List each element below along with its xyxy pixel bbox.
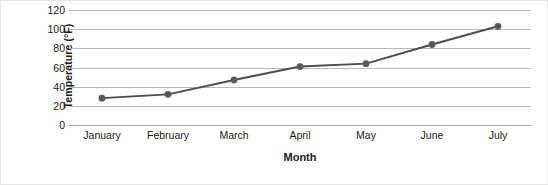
x-tick-label: January xyxy=(83,129,120,141)
y-tick-label: 0 xyxy=(59,119,65,131)
y-tick-label: 80 xyxy=(53,42,65,54)
data-point xyxy=(165,91,172,98)
data-point xyxy=(231,77,238,84)
gridline-0 xyxy=(69,125,531,126)
y-axis-tick-labels: 020406080100120 xyxy=(31,10,65,125)
x-tick-label: June xyxy=(421,129,444,141)
x-axis-tick-labels: JanuaryFebruaryMarchAprilMayJuneJuly xyxy=(69,129,531,145)
y-tick-label: 100 xyxy=(47,23,65,35)
data-point xyxy=(297,63,304,70)
data-point xyxy=(99,95,106,102)
y-tick-label: 20 xyxy=(53,100,65,112)
data-point xyxy=(363,60,370,67)
y-tick-label: 40 xyxy=(53,81,65,93)
x-tick-label: May xyxy=(356,129,376,141)
x-tick-label: March xyxy=(219,129,248,141)
x-axis-title: Month xyxy=(69,151,531,163)
y-tick-label: 60 xyxy=(53,62,65,74)
x-tick-label: July xyxy=(489,129,508,141)
x-tick-label: April xyxy=(289,129,310,141)
x-tick-label: February xyxy=(147,129,189,141)
plot-area xyxy=(69,10,531,125)
series-line xyxy=(102,26,498,98)
line-series xyxy=(69,10,531,125)
data-point xyxy=(429,41,436,48)
data-point xyxy=(495,23,502,30)
y-tick-label: 120 xyxy=(47,4,65,16)
chart-screenshot: Temperature (°F) 020406080100120 January… xyxy=(0,0,548,185)
